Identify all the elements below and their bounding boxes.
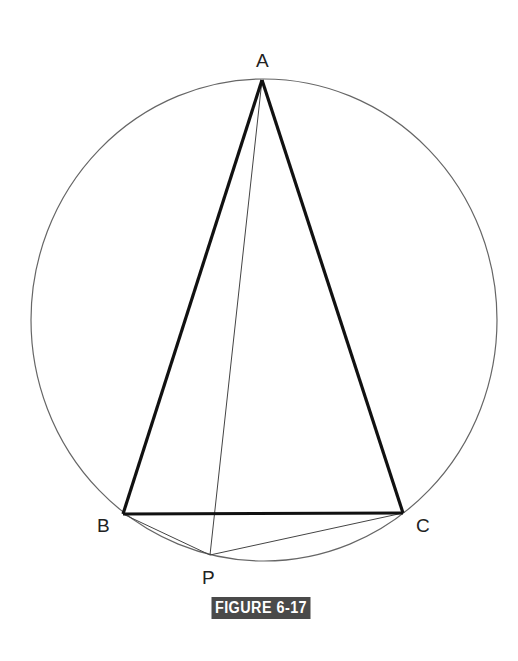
inscribed-triangle-diagram: A B C P xyxy=(0,0,518,661)
segment-AP xyxy=(210,80,262,555)
segment-BP xyxy=(123,514,210,555)
segment-AB xyxy=(123,80,262,514)
label-P: P xyxy=(202,567,215,588)
segment-CP xyxy=(210,513,403,555)
circumcircle xyxy=(31,79,497,561)
label-A: A xyxy=(256,50,269,71)
segment-AC xyxy=(262,80,403,513)
label-B: B xyxy=(97,515,110,536)
label-C: C xyxy=(416,515,430,536)
figure-caption: FIGURE 6-17 xyxy=(212,597,311,619)
segment-BC xyxy=(123,513,403,514)
